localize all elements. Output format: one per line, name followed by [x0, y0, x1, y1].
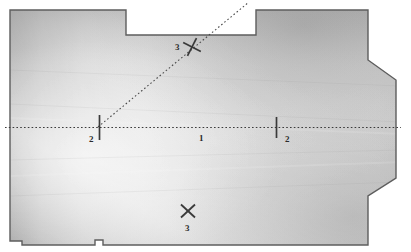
right-tick-label-2: 2 — [285, 135, 290, 144]
specimen-body — [0, 0, 411, 252]
specimen-figure-svg — [0, 0, 411, 252]
lower-cross-label-3: 3 — [185, 224, 190, 233]
baseline-span-label-1: 1 — [199, 134, 204, 143]
figure-root: 1 2 2 3 3 — [0, 0, 411, 252]
upper-cross-label-3: 3 — [175, 43, 180, 52]
left-tick-label-2: 2 — [89, 135, 94, 144]
